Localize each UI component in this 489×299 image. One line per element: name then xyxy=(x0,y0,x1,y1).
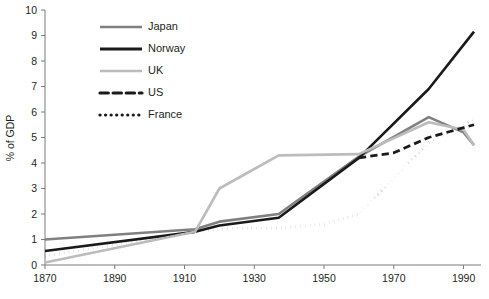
chart-legend: JapanNorwayUKUSFrance xyxy=(100,20,186,120)
y-tick-label: 6 xyxy=(31,106,37,118)
x-axis-tick-labels: 1870189019101930195019701990 xyxy=(33,272,475,284)
legend-label: US xyxy=(148,86,163,98)
y-axis-tick-labels: 012345678910 xyxy=(25,4,37,271)
legend-label: France xyxy=(148,108,182,120)
y-tick-label: 4 xyxy=(31,157,37,169)
series-line-uk xyxy=(45,122,474,262)
y-tick-label: 7 xyxy=(31,80,37,92)
x-tick-label: 1870 xyxy=(33,272,57,284)
legend-item-uk: UK xyxy=(100,64,164,76)
y-tick-label: 1 xyxy=(31,233,37,245)
y-tick-label: 0 xyxy=(31,259,37,271)
data-series-group xyxy=(45,32,474,263)
x-tick-label: 1990 xyxy=(452,272,476,284)
legend-label: Norway xyxy=(148,42,186,54)
x-tick-label: 1930 xyxy=(243,272,267,284)
chart-container: 012345678910 187018901910193019501970199… xyxy=(0,0,489,299)
x-tick-label: 1950 xyxy=(312,272,336,284)
series-line-norway xyxy=(45,32,474,251)
legend-item-norway: Norway xyxy=(100,42,186,54)
axis-titles: % of GDP xyxy=(4,115,16,162)
legend-label: Japan xyxy=(148,20,178,32)
x-tick-label: 1910 xyxy=(173,272,197,284)
y-tick-label: 10 xyxy=(25,4,37,16)
legend-item-france: France xyxy=(100,108,182,120)
y-tick-label: 5 xyxy=(31,131,37,143)
legend-item-japan: Japan xyxy=(100,20,178,32)
y-tick-label: 8 xyxy=(31,55,37,67)
y-tick-label: 2 xyxy=(31,208,37,220)
x-tick-label: 1890 xyxy=(103,272,127,284)
legend-item-us: US xyxy=(100,86,163,98)
y-tick-label: 9 xyxy=(31,29,37,41)
line-chart: 012345678910 187018901910193019501970199… xyxy=(0,0,489,299)
y-tick-label: 3 xyxy=(31,182,37,194)
legend-label: UK xyxy=(148,64,164,76)
x-tick-label: 1970 xyxy=(382,272,406,284)
y-axis-title: % of GDP xyxy=(4,115,16,162)
